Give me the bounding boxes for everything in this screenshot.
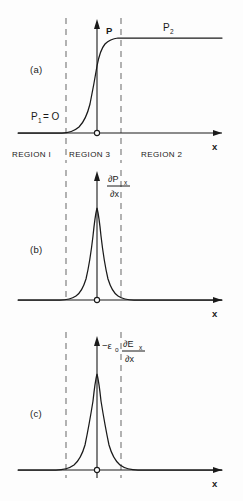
panel-a-y-axis-label: P bbox=[106, 25, 113, 36]
region-label-3: REGION 3 bbox=[69, 150, 111, 159]
panel-c-y-axis-prefix: −ε bbox=[102, 340, 113, 351]
panel-c-y-axis-prefix-subscript: o bbox=[115, 346, 119, 353]
panel-a-p1-equals-zero: = O bbox=[43, 111, 60, 122]
panel-a-p2-symbol: P bbox=[163, 22, 170, 33]
panel-b-y-axis-denominator: ∂x bbox=[110, 189, 119, 199]
panel-b-letter: (b) bbox=[30, 244, 43, 255]
panel-c-origin-marker bbox=[94, 467, 99, 472]
panel-c-y-axis-denominator: ∂x bbox=[125, 354, 134, 364]
panel-c-y-axis-numerator: ∂E bbox=[123, 339, 133, 349]
panel-b-origin-marker bbox=[94, 297, 99, 302]
panel-b-x-axis-label: x bbox=[212, 308, 218, 319]
panel-a-p1-symbol: P bbox=[31, 111, 38, 122]
panel-c-letter: (c) bbox=[30, 408, 42, 419]
panel-c-x-axis-label: x bbox=[212, 478, 218, 489]
panel-a-p2-subscript: 2 bbox=[170, 28, 174, 35]
region-label-1: REGION I bbox=[12, 150, 51, 159]
panel-a-p1-subscript: 1 bbox=[38, 117, 42, 124]
panel-a-letter: (a) bbox=[30, 64, 43, 75]
panel-a-origin-marker bbox=[94, 130, 99, 135]
figure-canvas: (a) P x P 1 = O P 2 REGION I REGION 3 RE… bbox=[0, 0, 243, 501]
region-label-band: REGION I REGION 3 REGION 2 bbox=[12, 150, 183, 159]
panel-b-y-axis-numerator: ∂P bbox=[108, 174, 118, 184]
physics-figure: (a) P x P 1 = O P 2 REGION I REGION 3 RE… bbox=[0, 0, 243, 501]
region-label-2: REGION 2 bbox=[141, 150, 183, 159]
panel-a-x-axis-label: x bbox=[212, 141, 218, 152]
